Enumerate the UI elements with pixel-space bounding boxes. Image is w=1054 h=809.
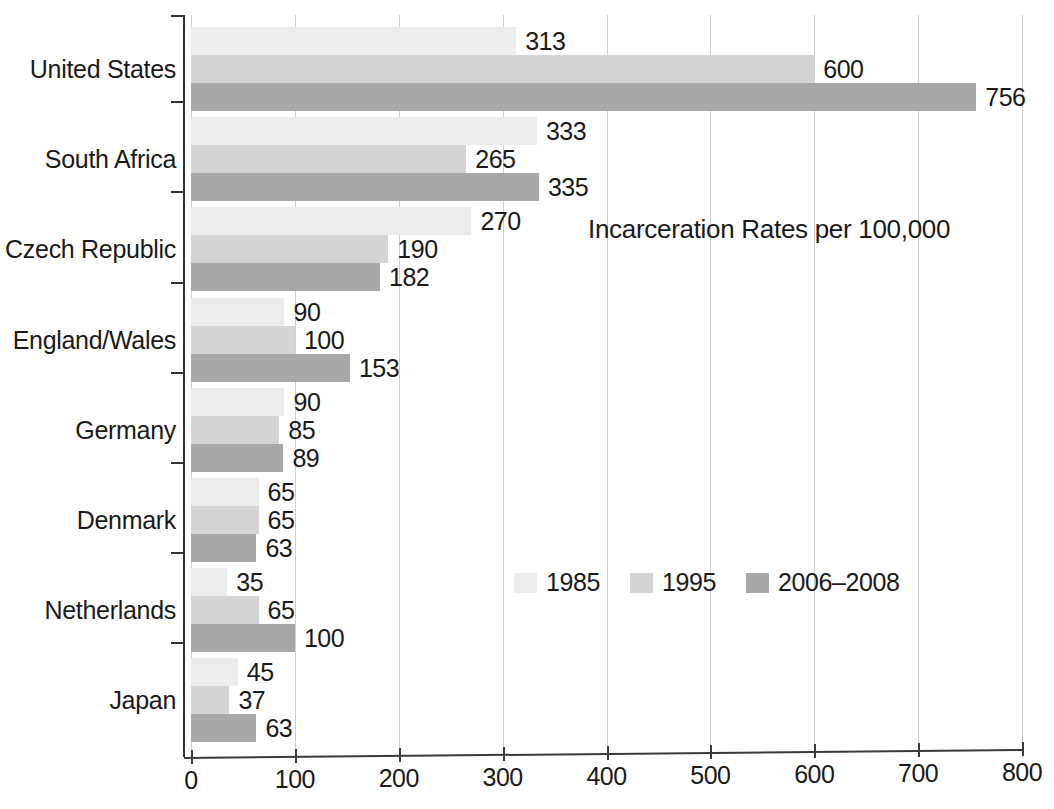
x-axis-tick-200 <box>399 748 401 762</box>
bar-value-label: 65 <box>259 478 295 506</box>
category-label: Denmark <box>0 506 176 535</box>
chart-legend: 198519952006–2008 <box>514 568 900 597</box>
bar <box>191 207 471 235</box>
bar-value-label: 600 <box>814 55 863 83</box>
bar-value-label: 63 <box>256 714 292 742</box>
x-axis-tick-label: 100 <box>275 765 315 794</box>
bar <box>191 83 976 111</box>
bar <box>191 263 380 291</box>
legend-item: 1985 <box>514 568 600 597</box>
bar-value-label: 45 <box>238 658 274 686</box>
bar-value-label: 65 <box>259 596 295 624</box>
x-axis-tick-600 <box>814 744 816 758</box>
x-axis-tick-label: 300 <box>483 763 523 792</box>
bar-value-label: 37 <box>229 686 265 714</box>
bar-value-label: 63 <box>256 534 292 562</box>
bar <box>191 27 516 55</box>
bar <box>191 624 295 652</box>
bar-value-label: 35 <box>227 568 263 596</box>
bar-value-label: 333 <box>537 117 586 145</box>
gridline-400 <box>607 15 608 757</box>
x-axis-tick-700 <box>918 743 920 757</box>
bar-value-label: 756 <box>976 83 1025 111</box>
x-axis-tick-label: 800 <box>1002 758 1042 787</box>
x-axis-tick-500 <box>710 745 712 759</box>
bar-value-label: 153 <box>350 354 399 382</box>
bar <box>191 117 537 145</box>
bar-value-label: 265 <box>466 145 515 173</box>
bar-value-label: 90 <box>284 298 320 326</box>
bar <box>191 478 259 506</box>
x-axis-tick-label: 0 <box>184 766 197 795</box>
bar-value-label: 89 <box>283 444 319 472</box>
bar-value-label: 270 <box>471 207 520 235</box>
category-label: Japan <box>0 686 176 715</box>
category-label: Czech Republic <box>0 235 176 264</box>
bar-value-label: 182 <box>380 263 429 291</box>
bar <box>191 686 229 714</box>
category-label: Netherlands <box>0 596 176 625</box>
legend-swatch <box>514 573 537 593</box>
x-axis-tick-300 <box>503 747 505 761</box>
legend-swatch <box>746 573 769 593</box>
bar <box>191 298 284 326</box>
category-label: United States <box>0 55 176 84</box>
x-axis-tick-label: 400 <box>586 762 626 791</box>
bar <box>191 55 814 83</box>
bar <box>191 506 259 534</box>
chart-title: Incarceration Rates per 100,000 <box>588 214 950 245</box>
legend-label: 1995 <box>662 568 716 597</box>
legend-item: 1995 <box>630 568 716 597</box>
bar <box>191 173 539 201</box>
x-axis-tick-0 <box>191 750 193 764</box>
y-axis-line <box>183 15 185 757</box>
category-label: Germany <box>0 415 176 444</box>
category-label: England/Wales <box>0 325 176 354</box>
legend-label: 2006–2008 <box>778 568 900 597</box>
bar-value-label: 313 <box>516 27 565 55</box>
bar <box>191 326 295 354</box>
bar <box>191 714 256 742</box>
bar <box>191 534 256 562</box>
bar-value-label: 65 <box>259 506 295 534</box>
bar-value-label: 100 <box>295 326 344 354</box>
bar <box>191 568 227 596</box>
bar <box>191 444 283 472</box>
bar <box>191 388 284 416</box>
x-axis-tick-100 <box>295 749 297 763</box>
x-axis-tick-400 <box>607 746 609 760</box>
bar-value-label: 335 <box>539 173 588 201</box>
gridline-700 <box>918 15 919 757</box>
legend-label: 1985 <box>546 568 600 597</box>
x-axis-tick-label: 700 <box>898 759 938 788</box>
bar-value-label: 190 <box>388 235 437 263</box>
gridline-600 <box>814 15 815 757</box>
bar-value-label: 90 <box>284 388 320 416</box>
category-axis-labels: United StatesSouth AfricaCzech RepublicE… <box>0 0 176 809</box>
bar <box>191 658 238 686</box>
bar-value-label: 100 <box>295 624 344 652</box>
incarceration-rates-bar-chart: 3136007563332653352701901829010015390858… <box>0 0 1054 809</box>
bar <box>191 416 279 444</box>
legend-item: 2006–2008 <box>746 568 900 597</box>
legend-swatch <box>630 573 653 593</box>
x-axis-tick-label: 200 <box>379 764 419 793</box>
x-axis-tick-label: 600 <box>794 760 834 789</box>
category-label: South Africa <box>0 145 176 174</box>
gridline-800 <box>1022 15 1023 757</box>
gridline-500 <box>710 15 711 757</box>
x-axis-tick-800 <box>1022 742 1024 756</box>
bar <box>191 145 466 173</box>
bar <box>191 354 350 382</box>
bar <box>191 235 388 263</box>
x-axis-tick-label: 500 <box>690 761 730 790</box>
bar-value-label: 85 <box>279 416 315 444</box>
bar <box>191 596 259 624</box>
